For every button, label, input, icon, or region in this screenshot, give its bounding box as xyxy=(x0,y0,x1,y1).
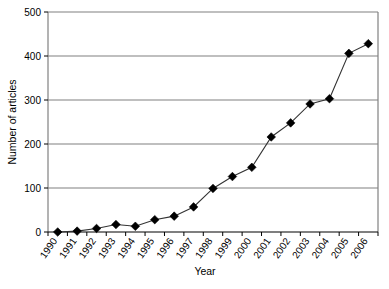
y-tick-label: 400 xyxy=(24,51,41,62)
y-axis-title: Number of articles xyxy=(6,79,18,164)
y-tick-label: 200 xyxy=(24,139,41,150)
y-tick-label: 500 xyxy=(24,7,41,18)
y-tick-label: 100 xyxy=(24,183,41,194)
y-tick-label: 0 xyxy=(35,227,41,238)
chart-container: 0100200300400500 19901991199219931994199… xyxy=(0,0,389,289)
x-axis-title: Year xyxy=(194,265,216,277)
x-tick-labels: 1990199119921993199419951996199719981999… xyxy=(38,235,371,260)
line-chart: 0100200300400500 19901991199219931994199… xyxy=(0,0,389,289)
y-tick-label: 300 xyxy=(24,95,41,106)
